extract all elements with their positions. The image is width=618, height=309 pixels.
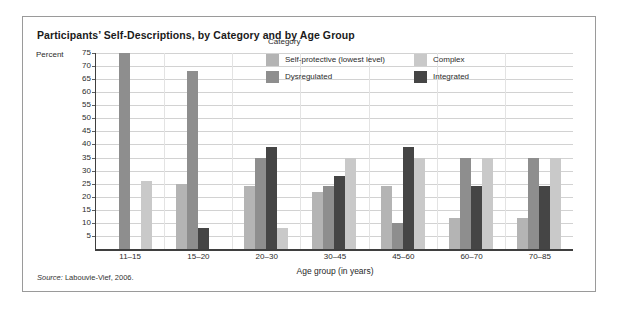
y-axis-tick-label: 5 [87,232,91,240]
y-axis-tick-label: 65 [82,75,91,83]
y-axis-tick-label: 30 [82,167,91,175]
x-axis-tick-label: 20–30 [233,252,301,261]
group-separator [164,53,165,249]
x-axis-tick-label: 70–85 [506,252,574,261]
y-axis-tick-label: 25 [82,180,91,188]
x-axis-title: Age group (in years) [96,266,574,276]
bar-slot [130,53,141,249]
y-axis-tick-label: 40 [82,140,91,148]
legend-title: Category [266,37,518,46]
legend-item-label: Integrated [433,72,469,81]
legend-swatch-icon [266,71,279,83]
bar [460,158,471,249]
bar [277,228,288,249]
y-axis-tick-label: 35 [82,154,91,162]
legend-swatch-icon [414,71,427,83]
bar-slot [550,53,561,249]
legend-swatch-icon [266,54,279,66]
x-axis-ticks: 11–1515–2020–3030–4545–6060–7070–85 [96,252,574,261]
screenshot-root: Participants’ Self-Descriptions, by Cate… [0,0,618,309]
bar [244,186,255,249]
bar-group [96,53,164,249]
bar-slot [528,53,539,249]
bar-slot [244,53,255,249]
bar [266,147,277,249]
x-axis-tick-label: 60–70 [437,252,505,261]
bar [403,147,414,249]
bar [381,186,392,249]
bar [539,186,550,249]
bar-group [164,53,232,249]
legend-item: Dysregulated [266,71,414,83]
bar-slot [209,53,220,249]
y-axis-tick-label: 50 [82,114,91,122]
bar-slot [517,53,528,249]
bar-slot [255,53,266,249]
bar [414,158,425,249]
legend-item-label: Dysregulated [285,72,332,81]
figure-frame: Participants’ Self-Descriptions, by Cate… [22,16,596,292]
bar [449,218,460,249]
bar [255,158,266,249]
bar [119,53,130,249]
bar-slot [141,53,152,249]
bar [198,228,209,249]
source-text: Labouvie-Vief, 2006. [65,273,134,282]
bar [176,184,187,249]
bar [187,71,198,249]
bar [312,192,323,249]
y-axis-tick-label: 20 [82,193,91,201]
bar [392,223,403,249]
x-axis-tick-label: 15–20 [164,252,232,261]
bar [471,186,482,249]
y-axis-tick-label: 70 [82,62,91,70]
legend-swatch-icon [414,54,427,66]
bar-slot [187,53,198,249]
y-axis-tick-label: 15 [82,206,91,214]
group-separator [232,53,233,249]
y-axis-tick-label: 60 [82,88,91,96]
bar [528,158,539,249]
bar [550,158,561,249]
bar-slot [198,53,209,249]
source-note: Source: Labouvie-Vief, 2006. [37,273,134,282]
x-axis-tick-label: 45–60 [369,252,437,261]
y-axis-tick-label: 45 [82,127,91,135]
legend-item: Self-protective (lowest level) [266,54,414,66]
bar [141,181,152,249]
y-axis-tick-label: 75 [82,49,91,57]
bar-slot [176,53,187,249]
bar-slot [539,53,550,249]
source-prefix: Source: [37,273,63,282]
legend: Category Self-protective (lowest level)C… [266,37,518,85]
bar-slot [119,53,130,249]
x-axis-line [95,249,573,251]
y-axis-tick-label: 10 [82,219,91,227]
bar [334,176,345,249]
y-axis-title: Percent [36,50,64,59]
bar-slot [108,53,119,249]
y-axis-tick-label: 55 [82,101,91,109]
bar [517,218,528,249]
legend-item: Integrated [414,71,518,83]
x-axis-tick-label: 30–45 [301,252,369,261]
bar [345,158,356,249]
bar [482,158,493,249]
bar [323,186,334,249]
legend-item-label: Complex [433,55,465,64]
legend-item-label: Self-protective (lowest level) [285,55,385,64]
legend-items: Self-protective (lowest level)ComplexDys… [266,51,518,85]
x-axis-tick-label: 11–15 [96,252,164,261]
legend-item: Complex [414,54,518,66]
